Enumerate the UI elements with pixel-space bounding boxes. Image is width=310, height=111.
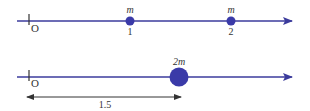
- top-mass-label-2: m: [227, 4, 234, 15]
- top-position-label-2: 2: [229, 26, 234, 37]
- top-mass-dot-2: [227, 17, 236, 26]
- distance-label: 1.5: [99, 99, 112, 110]
- bottom-origin-label: O: [31, 77, 39, 89]
- bottom-mass-label: 2m: [173, 56, 185, 67]
- top-origin-label: O: [31, 22, 39, 34]
- bottom-axis: O 2m 1.5: [17, 56, 292, 110]
- center-of-mass-diagram: O m 1 m 2 O 2m 1.5: [0, 0, 310, 111]
- top-mass-dot-1: [126, 17, 135, 26]
- top-position-label-1: 1: [128, 26, 133, 37]
- bottom-mass-dot: [170, 68, 189, 87]
- top-mass-label-1: m: [126, 4, 133, 15]
- top-axis: O m 1 m 2: [17, 4, 292, 37]
